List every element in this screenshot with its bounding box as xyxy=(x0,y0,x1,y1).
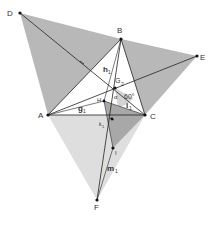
geometry-diagram: D B E A C F G 2 H I h 1 g 1 i 1 k 1 m 1 … xyxy=(0,0,212,227)
label-g1-sub: 1 xyxy=(83,108,86,114)
label-60-degrees: 60° xyxy=(124,93,135,100)
label-B: B xyxy=(117,26,122,35)
triangle-ABD xyxy=(20,13,121,115)
point-D[interactable] xyxy=(18,11,21,14)
label-D: D xyxy=(7,9,13,18)
triangle-BCE xyxy=(121,39,197,115)
label-m1: m xyxy=(107,164,114,173)
point-K[interactable] xyxy=(111,118,114,121)
label-F: F xyxy=(94,203,99,212)
label-G-sub: 2 xyxy=(121,81,124,87)
point-G[interactable] xyxy=(113,86,116,89)
label-i1-sub: 1 xyxy=(129,105,132,111)
point-B[interactable] xyxy=(119,37,122,40)
point-C[interactable] xyxy=(143,113,146,116)
point-A[interactable] xyxy=(46,113,49,116)
point-E[interactable] xyxy=(195,54,198,57)
label-h1-sub: 1 xyxy=(108,69,111,75)
label-E: E xyxy=(200,53,205,62)
label-alpha: α xyxy=(114,94,118,100)
label-m1-sub: 1 xyxy=(115,168,118,174)
point-F[interactable] xyxy=(95,198,98,201)
label-H: H xyxy=(97,97,101,103)
label-G: G xyxy=(115,77,120,84)
point-H[interactable] xyxy=(103,100,106,103)
label-A: A xyxy=(38,111,44,120)
label-i1: i xyxy=(126,101,128,110)
label-C: C xyxy=(150,112,156,121)
